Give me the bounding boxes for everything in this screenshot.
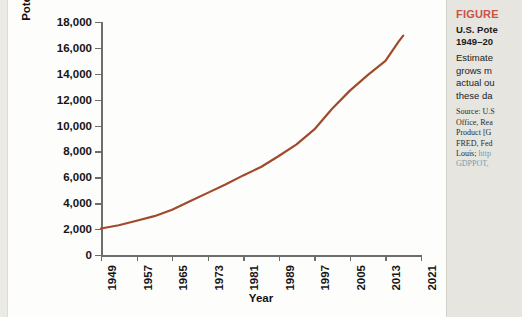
x-axis-line	[101, 255, 421, 257]
y-axis-title: Potential GDP (2009 dollars, billions)	[20, 0, 36, 30]
x-axis-tick-label: 2021	[426, 265, 438, 291]
figure-body-line-4: these da	[456, 90, 522, 103]
figure-body-line-3: actual ou	[456, 77, 522, 90]
y-axis-tick-label: 14,000	[57, 68, 92, 80]
source-url-fragment-2[interactable]: GDPPOT,	[456, 159, 522, 169]
source-line-5-text: Louis;	[456, 149, 476, 158]
source-line-3: Product [G	[456, 128, 522, 138]
x-axis-tick	[385, 255, 386, 261]
x-axis-tick-label: 2005	[355, 265, 367, 291]
x-axis-tick	[137, 255, 138, 261]
y-axis-tick-label: 4,000	[63, 197, 92, 209]
source-url-fragment-1[interactable]: http	[478, 149, 490, 158]
y-axis-tick-label: 10,000	[57, 120, 92, 132]
potential-gdp-line-chart: Potential GDP (2009 dollars, billions) 0…	[0, 0, 440, 317]
y-axis-tick	[95, 203, 101, 204]
y-axis-tick-label: 16,000	[57, 42, 92, 54]
x-axis-tick	[314, 255, 315, 261]
y-axis-tick-label: 2,000	[63, 223, 92, 235]
x-axis-tick	[421, 255, 422, 261]
x-axis-tick-label: 1989	[284, 265, 296, 291]
figure-body-line-2: grows m	[456, 65, 522, 78]
y-axis-tick-label: 12,000	[57, 94, 92, 106]
x-axis-tick	[172, 255, 173, 261]
y-axis-tick-label: 6,000	[63, 171, 92, 183]
figure-caption-panel: FIGURE U.S. Pote 1949–20 Estimate grows …	[446, 0, 522, 317]
figure-body-line-1: Estimate	[456, 52, 522, 65]
source-line-2: Office, Rea	[456, 118, 522, 128]
x-axis-tick-label: 1981	[248, 265, 260, 291]
figure-title-line-1: U.S. Pote	[456, 24, 522, 36]
series-line-potential-gdp	[101, 22, 421, 255]
y-axis-tick	[95, 74, 101, 75]
y-axis-tick	[95, 22, 101, 23]
y-axis-tick	[95, 100, 101, 101]
x-axis-tick-label: 1957	[142, 265, 154, 291]
y-axis-tick-label: 8,000	[63, 145, 92, 157]
x-axis-tick-label: 1997	[319, 265, 331, 291]
y-axis-tick-label: 18,000	[57, 16, 92, 28]
x-axis-title: Year	[101, 292, 421, 304]
x-axis-tick-label: 2013	[390, 265, 402, 291]
source-line-1: Source: U.S	[456, 107, 522, 117]
x-axis-tick-label: 1973	[213, 265, 225, 291]
x-axis-tick	[350, 255, 351, 261]
y-axis-tick	[95, 48, 101, 49]
y-axis-tick	[95, 229, 101, 230]
figure-title-line-2: 1949–20	[456, 36, 522, 48]
page-background: Potential GDP (2009 dollars, billions) 0…	[0, 0, 522, 317]
x-axis-tick	[208, 255, 209, 261]
x-axis-tick	[279, 255, 280, 261]
x-axis-tick-label: 1949	[106, 265, 118, 291]
source-line-5: Louis; http	[456, 149, 522, 159]
y-axis-tick	[95, 151, 101, 152]
y-axis-tick	[95, 126, 101, 127]
y-axis-tick-label: 0	[86, 249, 92, 261]
figure-kicker-label: FIGURE	[456, 8, 522, 20]
figure-body-text: Estimate grows m actual ou these da	[456, 52, 522, 102]
source-line-4: FRED, Fed	[456, 139, 522, 149]
x-axis-tick	[101, 255, 102, 261]
x-axis-tick	[243, 255, 244, 261]
plot-area: 02,0004,0006,0008,00010,00012,00014,0001…	[101, 22, 421, 255]
figure-source-citation: Source: U.S Office, Rea Product [G FRED,…	[456, 107, 522, 169]
x-axis-tick-label: 1965	[177, 265, 189, 291]
figure-title: U.S. Pote 1949–20	[456, 24, 522, 48]
y-axis-tick	[95, 177, 101, 178]
